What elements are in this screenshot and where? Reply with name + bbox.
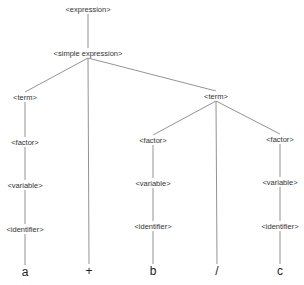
edge-simple_expression-leaf_plus bbox=[88, 58, 89, 264]
tree-node-leaf-a: a bbox=[21, 266, 30, 279]
tree-node-leaf-plus: + bbox=[84, 265, 93, 278]
edge-term_right-leaf_slash bbox=[216, 101, 217, 264]
tree-node-variable-b: <variable> bbox=[134, 179, 171, 188]
edge-term_right-factor_b bbox=[153, 101, 216, 135]
tree-node-identifier-a: <identifier> bbox=[5, 225, 44, 234]
edge-simple_expression-term_left bbox=[25, 58, 88, 92]
tree-node-factor-b: <factor> bbox=[138, 136, 168, 145]
edge-term_right-factor_c bbox=[216, 101, 280, 134]
tree-node-term-left: <term> bbox=[12, 93, 38, 102]
tree-node-leaf-b: b bbox=[149, 265, 158, 278]
tree-node-factor-c: <factor> bbox=[265, 135, 295, 144]
tree-node-variable-c: <variable> bbox=[261, 178, 298, 187]
tree-node-identifier-b: <identifier> bbox=[133, 222, 172, 231]
tree-node-expression: <expression> bbox=[64, 5, 111, 14]
tree-node-simple-expression: <simple expression> bbox=[53, 49, 124, 58]
tree-node-identifier-c: <identifier> bbox=[260, 222, 299, 231]
tree-node-term-right: <term> bbox=[203, 92, 229, 101]
edge-simple_expression-term_right bbox=[88, 58, 216, 91]
tree-node-factor-a: <factor> bbox=[10, 138, 40, 147]
tree-node-leaf-c: c bbox=[276, 265, 284, 278]
tree-node-variable-a: <variable> bbox=[6, 181, 43, 190]
tree-node-leaf-slash: / bbox=[214, 265, 219, 278]
